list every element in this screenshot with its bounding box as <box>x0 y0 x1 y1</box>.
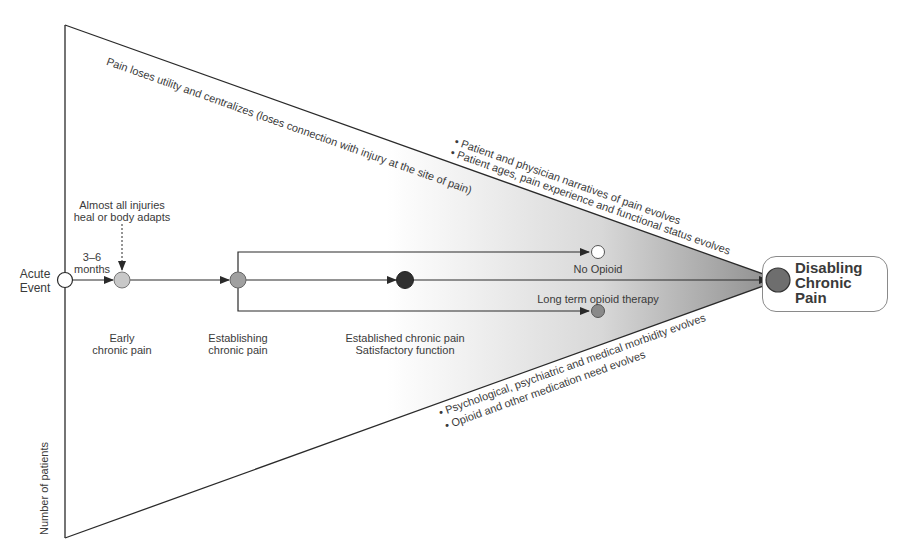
no-opioid-label: No Opioid <box>558 263 638 276</box>
node-established-chronic <box>397 272 414 289</box>
funnel-triangle <box>65 25 780 538</box>
early-label-line2: chronic pain <box>80 344 164 357</box>
node-early-chronic <box>114 272 130 288</box>
acute-event-label: Acute Event <box>15 267 55 295</box>
y-axis-label: Number of patients <box>38 442 50 535</box>
heal-note-line2: heal or body adapts <box>62 211 182 224</box>
establishing-label-line2: chronic pain <box>196 344 280 357</box>
outcome-label: Disabling Chronic Pain <box>795 260 863 305</box>
time-interval-line2: months <box>74 263 110 276</box>
node-long-term-opioid <box>592 305 605 318</box>
node-acute-event <box>58 273 73 288</box>
long-term-opioid-label: Long term opioid therapy <box>530 293 666 306</box>
node-establishing-chronic <box>230 272 246 288</box>
established-label-line2: Satisfactory function <box>330 344 480 357</box>
node-no-opioid <box>592 246 605 259</box>
